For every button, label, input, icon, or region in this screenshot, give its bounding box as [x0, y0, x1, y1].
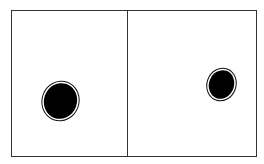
panel-divider	[127, 10, 128, 157]
